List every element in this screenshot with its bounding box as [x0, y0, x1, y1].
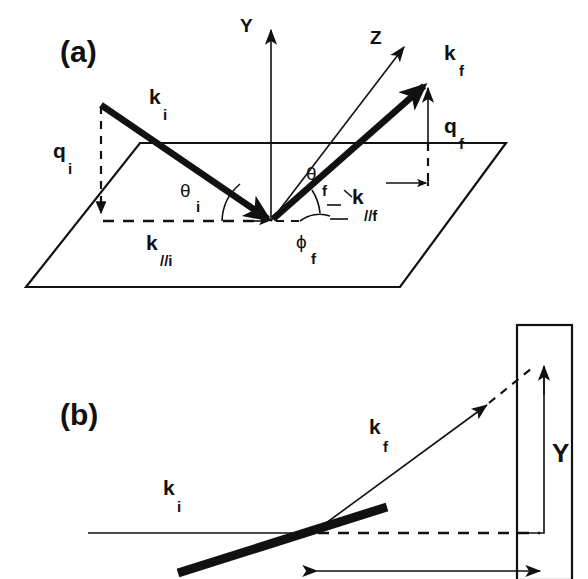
k-i-subscript-b: i: [177, 498, 181, 515]
theta-i-subscript: i: [196, 198, 200, 215]
k-parallel-i-subscript: //i: [160, 252, 173, 269]
phi-f-label: ϕ: [296, 231, 307, 252]
k-i-subscript: i: [163, 106, 167, 123]
panel-b-group: (b) k i k f Y: [60, 325, 572, 579]
z-axis-line: [271, 47, 404, 221]
q-f-label: q: [444, 114, 457, 137]
theta-f-label: θ: [306, 163, 317, 184]
k-parallel-f-label: k: [352, 185, 364, 208]
k-f-vector: [273, 86, 424, 219]
k-i-label-b: k: [163, 476, 175, 499]
k-f-extension-dashed-b: [489, 368, 532, 403]
k-i-label: k: [149, 85, 161, 108]
k-f-label-b: k: [369, 415, 381, 438]
y-label-b: Y: [552, 438, 569, 468]
panel-b-label: (b): [60, 398, 98, 431]
k-f-beam-b: [311, 405, 487, 534]
k-f-subscript: f: [459, 62, 465, 79]
k-parallel-f-subscript: //f: [364, 207, 378, 224]
phi-f-subscript: f: [311, 250, 317, 267]
phi-f-arc: [300, 214, 330, 221]
z-axis-label: Z: [370, 27, 382, 48]
k-f-subscript-b: f: [383, 438, 389, 455]
q-i-subscript: i: [68, 160, 72, 177]
theta-f-subscript: f: [322, 182, 328, 199]
y-axis-label: Y: [240, 15, 253, 36]
sample-bar-b: [178, 507, 387, 573]
theta-i-label: θ: [180, 180, 191, 201]
scattering-geometry-figure: (a) Y Z k i q i k //i θ: [0, 0, 588, 579]
y-measure-path-b: [516, 372, 544, 533]
k-f-label: k: [444, 41, 456, 64]
k-parallel-i-label: k: [146, 231, 158, 254]
panel-a-group: (a) Y Z k i q i k //i θ: [26, 15, 506, 287]
figure-canvas: (a) Y Z k i q i k //i θ: [0, 0, 588, 579]
theta-f-arc: [312, 190, 320, 213]
k-parallel-f-leader: [344, 190, 352, 197]
panel-a-label: (a): [60, 35, 97, 68]
q-i-label: q: [53, 139, 66, 162]
